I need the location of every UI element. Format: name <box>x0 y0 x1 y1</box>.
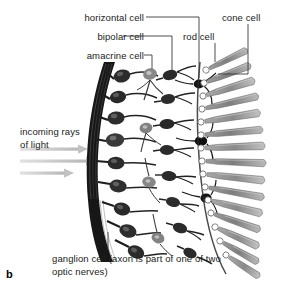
leader-amacrine-cell <box>144 55 152 69</box>
label-cone-cell: cone cell <box>222 12 260 24</box>
label-incoming-light: incoming rays of light <box>20 126 90 151</box>
label-rod-cell: rod cell <box>183 31 214 43</box>
retina-diagram: horizontal cell bipolar cell amacrine ce… <box>0 0 286 297</box>
photoreceptor <box>199 157 266 167</box>
photoreceptor <box>198 142 265 152</box>
label-amacrine-cell: amacrine cell <box>0 50 144 62</box>
figure-letter: b <box>6 268 13 280</box>
label-bipolar-cell: bipolar cell <box>0 31 144 43</box>
leader-horizontal-cell <box>146 17 199 78</box>
label-horizontal-cell: horizontal cell <box>0 12 144 24</box>
photoreceptor <box>197 109 261 126</box>
ganglion-cell-layer <box>95 68 167 262</box>
photoreceptor <box>200 170 266 184</box>
photoreceptor-layer <box>197 47 266 280</box>
label-ganglion-cell: ganglion cell (axon is part of one of tw… <box>52 253 242 278</box>
